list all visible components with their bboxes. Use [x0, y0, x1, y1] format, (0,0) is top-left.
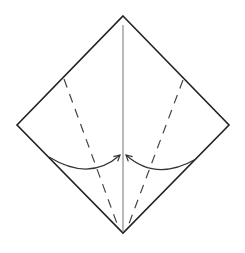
fold-arrow-left — [49, 155, 120, 169]
fold-arrow-right — [126, 155, 196, 170]
valley-fold-left — [64, 79, 119, 229]
valley-fold-right — [127, 80, 183, 229]
origami-diagram — [0, 0, 245, 253]
